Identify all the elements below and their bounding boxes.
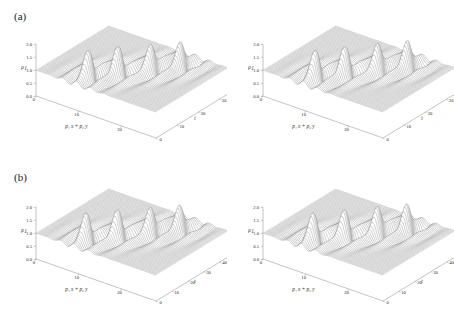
surface-svg-a-right: 0.00.51.01.52.0ρ101020p₁ x + p₂ y0102030… bbox=[227, 0, 454, 162]
surface-plot-a-right: 0.00.51.01.52.0ρ101020p₁ x + p₂ y0102030… bbox=[227, 0, 454, 162]
svg-text:t: t bbox=[194, 115, 196, 121]
svg-text:2.0: 2.0 bbox=[253, 42, 259, 47]
svg-text:2.0: 2.0 bbox=[26, 205, 32, 210]
svg-text:0: 0 bbox=[260, 260, 263, 265]
svg-text:20: 20 bbox=[344, 127, 349, 132]
svg-text:1.5: 1.5 bbox=[253, 55, 259, 60]
surface-plot-b-right: 0.00.51.01.52.0ρ101020p₁ x + p₂ y0102030… bbox=[227, 163, 454, 325]
svg-text:2.0: 2.0 bbox=[253, 205, 259, 210]
svg-text:1: 1 bbox=[24, 65, 27, 71]
svg-text:2.0: 2.0 bbox=[26, 42, 32, 47]
svg-text:p₁ x + p₂ y: p₁ x + p₂ y bbox=[64, 123, 88, 129]
svg-text:0: 0 bbox=[159, 300, 162, 305]
svg-text:0.5: 0.5 bbox=[26, 81, 32, 86]
svg-text:p₁ x + p₂ y: p₁ x + p₂ y bbox=[291, 286, 315, 292]
svg-text:1: 1 bbox=[251, 228, 254, 234]
svg-text:20: 20 bbox=[117, 127, 122, 132]
svg-text:20: 20 bbox=[201, 111, 206, 116]
svg-text:30: 30 bbox=[433, 270, 438, 275]
surface-svg-a-left: 0.00.51.01.52.0ρ101020p₁ x + p₂ y0102030… bbox=[0, 0, 227, 162]
surface-plot-a-left: 0.00.51.01.52.0ρ101020p₁ x + p₂ y0102030… bbox=[0, 0, 227, 162]
svg-text:0: 0 bbox=[386, 137, 389, 142]
svg-text:10: 10 bbox=[301, 112, 306, 117]
svg-text:p₁ x + p₂ y: p₁ x + p₂ y bbox=[291, 123, 315, 129]
svg-text:1.0: 1.0 bbox=[26, 231, 32, 236]
svg-text:10: 10 bbox=[174, 290, 179, 295]
svg-text:1.0: 1.0 bbox=[253, 68, 259, 73]
svg-text:t: t bbox=[421, 115, 423, 121]
svg-text:20: 20 bbox=[344, 290, 349, 295]
svg-text:10: 10 bbox=[406, 124, 411, 129]
svg-text:10: 10 bbox=[74, 275, 79, 280]
svg-text:1.5: 1.5 bbox=[253, 218, 259, 223]
svg-text:0.5: 0.5 bbox=[253, 244, 259, 249]
surface-svg-b-right: 0.00.51.01.52.0ρ101020p₁ x + p₂ y0102030… bbox=[227, 163, 454, 325]
surface-svg-b-left: 0.00.51.01.52.0ρ101020p₁ x + p₂ y0102030… bbox=[0, 163, 227, 325]
svg-text:t: t bbox=[194, 278, 196, 284]
svg-text:20: 20 bbox=[117, 290, 122, 295]
svg-text:t: t bbox=[421, 278, 423, 284]
plot-panel-b-left: (b) 0.00.51.01.52.0ρ101020p₁ x + p₂ y010… bbox=[0, 163, 227, 325]
svg-text:0: 0 bbox=[33, 260, 36, 265]
svg-text:0: 0 bbox=[386, 300, 389, 305]
plot-panel-a-left: (a) 0.00.51.01.52.0ρ101020p₁ x + p₂ y010… bbox=[0, 0, 227, 162]
svg-text:30: 30 bbox=[449, 98, 454, 103]
svg-text:p₁ x + p₂ y: p₁ x + p₂ y bbox=[64, 286, 88, 292]
svg-text:1.5: 1.5 bbox=[26, 55, 32, 60]
svg-text:0: 0 bbox=[33, 97, 36, 102]
plot-panel-a-right: 0.00.51.01.52.0ρ101020p₁ x + p₂ y0102030… bbox=[227, 0, 454, 162]
svg-text:1.0: 1.0 bbox=[26, 68, 32, 73]
svg-text:0: 0 bbox=[260, 97, 263, 102]
svg-text:1.5: 1.5 bbox=[26, 218, 32, 223]
svg-text:1: 1 bbox=[251, 65, 254, 71]
svg-text:10: 10 bbox=[74, 112, 79, 117]
svg-text:30: 30 bbox=[206, 270, 211, 275]
plot-panel-b-right: 0.00.51.01.52.0ρ101020p₁ x + p₂ y0102030… bbox=[227, 163, 454, 325]
figure-container: (a) 0.00.51.01.52.0ρ101020p₁ x + p₂ y010… bbox=[0, 0, 454, 325]
svg-text:0.5: 0.5 bbox=[26, 244, 32, 249]
svg-text:40: 40 bbox=[449, 260, 454, 265]
svg-text:10: 10 bbox=[179, 124, 184, 129]
svg-text:20: 20 bbox=[428, 111, 433, 116]
svg-text:0: 0 bbox=[159, 137, 162, 142]
svg-text:10: 10 bbox=[401, 290, 406, 295]
svg-text:1.0: 1.0 bbox=[253, 231, 259, 236]
svg-text:10: 10 bbox=[301, 275, 306, 280]
svg-text:0.5: 0.5 bbox=[253, 81, 259, 86]
svg-text:1: 1 bbox=[24, 228, 27, 234]
surface-plot-b-left: 0.00.51.01.52.0ρ101020p₁ x + p₂ y0102030… bbox=[0, 163, 227, 325]
